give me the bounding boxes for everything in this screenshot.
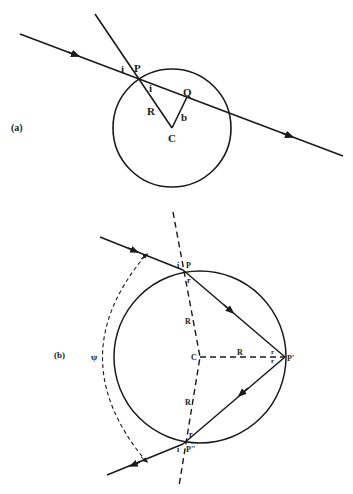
angle-r-top: r [187,276,191,285]
angle-i-outer: i [121,63,124,75]
segment-r-upper: R [185,317,191,326]
point-p-prime: P' [287,354,294,363]
refracted-ray [183,270,285,357]
angle-r-right-top: r [271,348,274,356]
segment-b: b [181,111,187,123]
arrow-icon [241,388,248,394]
incident-ray [100,237,183,270]
figure-b: i P r R C R r r P' R r i P'' ψ (b) [54,212,294,486]
angle-i-bottom: i [177,445,180,454]
arrow-icon [224,305,231,311]
optics-diagram: i P i Q R b C (a) i P r R C R [0,0,353,494]
deviation-arc [103,256,146,460]
arrow-icon [68,52,76,55]
point-p-double-prime: P'' [186,445,195,454]
arrow-icon [282,133,290,136]
angle-r-right-bottom: r [271,357,274,365]
angle-i-inner: i [149,82,152,94]
angle-psi: ψ [91,352,98,362]
point-p: P [134,62,141,74]
segment-r-horizontal: R [237,348,243,357]
point-p: P [186,261,191,270]
arrow-icon [128,248,135,251]
point-c: C [168,132,176,144]
angle-r-bottom: r [189,430,193,439]
panel-label-a: (a) [11,122,23,134]
segment-r-lower: R [185,398,191,407]
panel-label-b: (b) [54,350,65,360]
figure-a: i P i Q R b C (a) [11,14,343,187]
segment-r: R [147,105,156,117]
point-c: C [191,353,197,362]
point-q: Q [183,86,192,98]
